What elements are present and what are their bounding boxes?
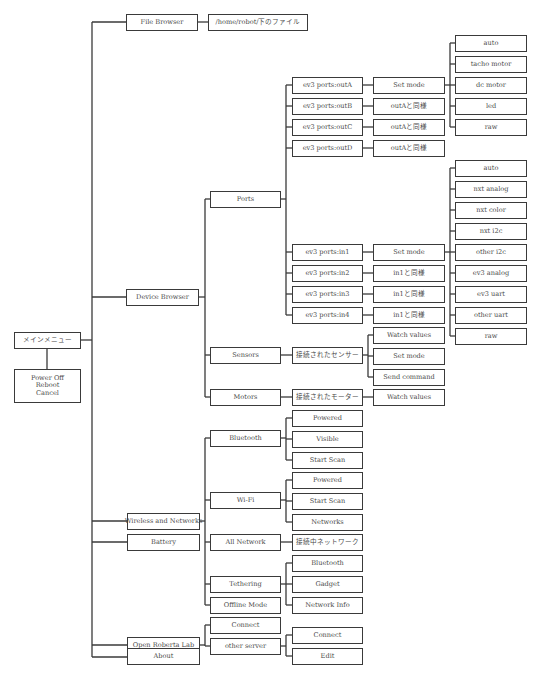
other-server-edit[interactable]: Edit [292,648,363,665]
wifi-start-scan[interactable]: Start Scan [292,493,363,510]
file-browser-node[interactable]: File Browser [126,14,198,31]
menu-tree-diagram: メインメニュー Power Off Reboot Cancel File Bro… [0,0,536,681]
out-mode-raw[interactable]: raw [455,119,527,136]
offline-mode-node[interactable]: Offline Mode [210,597,281,614]
in-mode-other-uart[interactable]: other uart [455,307,527,324]
other-server-connect[interactable]: Connect [292,627,363,644]
out-mode-tacho-motor[interactable]: tacho motor [455,56,527,73]
in-mode-other-i2c[interactable]: other i2c [455,244,527,261]
outA-set-mode-node[interactable]: Set mode [373,77,445,94]
sensor-watch-values[interactable]: Watch values [373,327,445,344]
bluetooth-powered[interactable]: Powered [292,410,363,427]
sensor-send-command[interactable]: Send command [373,369,445,386]
port-outD-node[interactable]: ev3 ports:outD [292,140,363,157]
sensor-set-mode[interactable]: Set mode [373,348,445,365]
in-mode-raw[interactable]: raw [455,328,527,345]
roberta-connect[interactable]: Connect [210,617,281,634]
bluetooth-node[interactable]: Bluetooth [210,430,281,447]
wifi-powered[interactable]: Powered [292,472,363,489]
port-in3-node[interactable]: ev3 ports:in3 [292,286,363,303]
in-mode-auto[interactable]: auto [455,160,527,177]
bluetooth-visible[interactable]: Visible [292,431,363,448]
tethering-node[interactable]: Tethering [210,576,281,593]
in-mode-ev3-analog[interactable]: ev3 analog [455,265,527,282]
in3-same-node: in1と同様 [373,286,445,303]
about-node[interactable]: About [127,648,200,665]
wireless-networks-node[interactable]: Wireless and Networks [127,513,200,530]
bluetooth-start-scan[interactable]: Start Scan [292,452,363,469]
in-mode-nxt-i2c[interactable]: nxt i2c [455,223,527,240]
in4-same-node: in1と同様 [373,307,445,324]
power-options-node[interactable]: Power Off Reboot Cancel [14,369,81,403]
tethering-network-info[interactable]: Network Info [292,597,363,614]
sensors-node[interactable]: Sensors [210,347,281,364]
in1-set-mode-node[interactable]: Set mode [373,244,445,261]
motor-watch-values[interactable]: Watch values [373,389,445,406]
ports-node[interactable]: Ports [210,191,281,208]
port-outC-node[interactable]: ev3 ports:outC [292,119,363,136]
battery-node[interactable]: Battery [127,534,200,551]
port-outA-node[interactable]: ev3 ports:outA [292,77,363,94]
in-mode-ev3-uart[interactable]: ev3 uart [455,286,527,303]
port-in2-node[interactable]: ev3 ports:in2 [292,265,363,282]
all-network-node[interactable]: All Network [210,534,281,551]
wifi-networks[interactable]: Networks [292,514,363,531]
tethering-gadget[interactable]: Gadget [292,576,363,593]
connected-motors-node[interactable]: 接続されたモーター [292,389,363,406]
in2-same-node: in1と同様 [373,265,445,282]
port-in1-node[interactable]: ev3 ports:in1 [292,244,363,261]
outC-same-node: outAと同様 [373,119,445,136]
connected-network-node[interactable]: 接続中ネットワーク [292,534,363,551]
tethering-bluetooth[interactable]: Bluetooth [292,555,363,572]
outD-same-node: outAと同様 [373,140,445,157]
outB-same-node: outAと同様 [373,98,445,115]
roberta-other-server[interactable]: other server [210,638,281,655]
port-outB-node[interactable]: ev3 ports:outB [292,98,363,115]
connected-sensors-node[interactable]: 接続されたセンサー [292,347,363,364]
wifi-node[interactable]: Wi-Fi [210,492,281,509]
motors-node[interactable]: Motors [210,389,281,406]
device-browser-node[interactable]: Device Browser [126,289,199,306]
out-mode-auto[interactable]: auto [455,35,527,52]
file-browser-path-node: /home/robot/下のファイル [208,14,308,31]
in-mode-nxt-color[interactable]: nxt color [455,202,527,219]
port-in4-node[interactable]: ev3 ports:in4 [292,307,363,324]
out-mode-led[interactable]: led [455,98,527,115]
in-mode-nxt-analog[interactable]: nxt analog [455,181,527,198]
main-menu-node[interactable]: メインメニュー [14,332,81,349]
out-mode-dc-motor[interactable]: dc motor [455,77,527,94]
